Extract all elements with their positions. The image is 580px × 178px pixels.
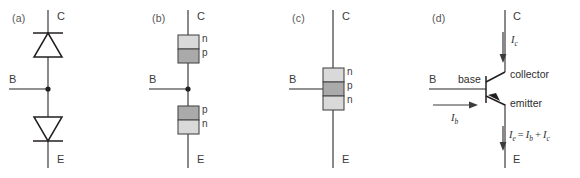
panel-b-circuit xyxy=(140,0,285,178)
panel-a-bottom-diode-triangle xyxy=(34,117,62,141)
equation-equals-sign: = xyxy=(516,129,526,140)
panel-c-label: (c) xyxy=(292,12,305,24)
panel-b-base-label: B xyxy=(149,73,156,85)
panel-c-bottom-layer-label: n xyxy=(347,94,353,105)
panel-d-base-current-label: Ib xyxy=(451,112,458,126)
panel-b-label: (b) xyxy=(152,12,165,24)
panel-c-top-n-region xyxy=(323,68,344,82)
panel-c-middle-p-region xyxy=(323,82,344,96)
panel-b-lower-bottom-region-label: n xyxy=(202,118,208,129)
panel-d-collector-current-label: Ic xyxy=(511,34,518,48)
panel-d-collector-part-label: collector xyxy=(510,68,549,80)
panel-c-circuit xyxy=(280,0,430,178)
panel-a-circuit xyxy=(0,0,145,178)
panel-b-upper-p-region xyxy=(178,49,199,63)
panel-d-base-part-label: base xyxy=(458,73,481,85)
panel-a-emitter-label: E xyxy=(57,153,64,165)
panel-d-emitter-part-label: emitter xyxy=(510,97,542,109)
panel-d-emitter-current-equation: Ie=Ib+Ic xyxy=(509,129,550,143)
panel-a-junction-dot xyxy=(45,86,50,91)
panel-c-collector-label: C xyxy=(342,10,350,22)
panel-b-collector-label: C xyxy=(197,10,205,22)
panel-d-collector-slant xyxy=(486,72,505,82)
equation-term2-subscript: c xyxy=(546,134,549,143)
figure-canvas: (a) C B E (b) C B E n p p n xyxy=(0,0,580,178)
base-current-subscript: b xyxy=(455,117,459,126)
panel-d-base-current-arrowhead xyxy=(469,102,478,109)
equation-plus-sign: + xyxy=(533,129,543,140)
panel-b-lower-n-region xyxy=(178,120,199,134)
panel-c: (c) C B E n p n xyxy=(280,0,430,178)
panel-c-base-label: B xyxy=(289,73,296,85)
panel-d-collector-terminal-label: C xyxy=(513,10,521,22)
panel-d: (d) C B E collector base emitter Ic Ib I… xyxy=(420,0,580,178)
panel-a: (a) C B E xyxy=(0,0,145,178)
panel-b-upper-top-region-label: n xyxy=(202,33,208,44)
panel-b: (b) C B E n p p n xyxy=(140,0,285,178)
panel-d-emitter-terminal-label: E xyxy=(513,153,520,165)
panel-a-base-label: B xyxy=(9,73,16,85)
panel-c-middle-layer-label: p xyxy=(347,80,353,91)
panel-b-lower-top-region-label: p xyxy=(202,104,208,115)
panel-b-upper-bottom-region-label: p xyxy=(202,47,208,58)
panel-b-upper-n-region xyxy=(178,35,199,49)
panel-d-label: (d) xyxy=(432,12,445,24)
panel-b-emitter-label: E xyxy=(197,153,204,165)
panel-a-top-diode-triangle xyxy=(34,33,62,57)
panel-a-label: (a) xyxy=(12,12,25,24)
panel-c-top-layer-label: n xyxy=(347,66,353,77)
panel-d-circuit xyxy=(420,0,580,178)
collector-current-subscript: c xyxy=(515,39,518,48)
panel-c-emitter-label: E xyxy=(342,153,349,165)
panel-a-collector-label: C xyxy=(57,10,65,22)
panel-b-lower-p-region xyxy=(178,106,199,120)
panel-d-base-terminal-label: B xyxy=(429,73,436,85)
panel-c-bottom-n-region xyxy=(323,96,344,110)
panel-b-junction-dot xyxy=(185,86,190,91)
